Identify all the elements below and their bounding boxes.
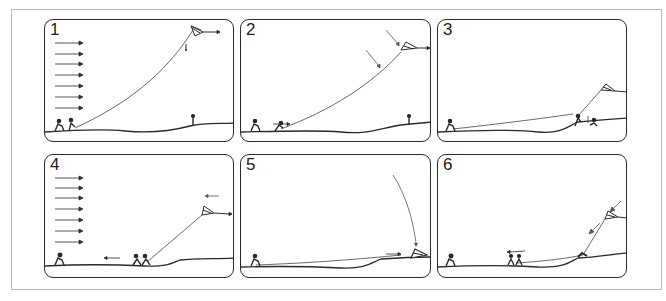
person-icon xyxy=(55,253,150,265)
descent-arrow-icon xyxy=(393,175,416,243)
panel-5: 5 xyxy=(240,154,431,278)
kite-icon xyxy=(605,211,627,219)
kite-icon xyxy=(191,26,220,36)
wind-arrow-icon xyxy=(205,195,219,198)
ground-line xyxy=(241,122,431,133)
panel-3-illustration xyxy=(438,20,627,142)
kite-icon xyxy=(202,206,232,216)
ground-line xyxy=(45,123,234,132)
ground-line xyxy=(438,118,627,132)
panel-6-illustration xyxy=(438,155,627,278)
kite-line xyxy=(75,30,193,128)
ground-line xyxy=(241,257,431,268)
kite-icon xyxy=(601,84,627,92)
kite-line xyxy=(281,52,401,129)
panel-1: 1 xyxy=(44,19,234,142)
panel-4: 4 xyxy=(44,154,234,278)
kite-line xyxy=(147,215,202,262)
kite-icon xyxy=(401,42,430,50)
tow-arrow-icon xyxy=(104,257,120,260)
person-icon xyxy=(446,114,597,131)
tow-arrow-icon xyxy=(386,253,401,256)
panel-6: 6 xyxy=(437,154,627,278)
wind-arrows-icon xyxy=(55,41,83,110)
wind-arrow-icon xyxy=(366,30,399,68)
wind-arrows-icon xyxy=(55,176,83,244)
ground-line xyxy=(438,253,627,267)
person-icon xyxy=(251,254,260,266)
tow-arrow-icon xyxy=(507,251,525,254)
person-icon xyxy=(55,115,194,131)
panel-2: 2 xyxy=(240,19,431,142)
kite-line xyxy=(516,255,583,263)
kite-line xyxy=(453,114,573,129)
panel-5-illustration xyxy=(241,155,431,278)
panel-3: 3 xyxy=(437,19,627,142)
panel-1-illustration xyxy=(45,20,234,142)
panel-4-illustration xyxy=(45,155,234,278)
panel-2-illustration xyxy=(241,20,431,142)
person-icon xyxy=(251,115,410,131)
